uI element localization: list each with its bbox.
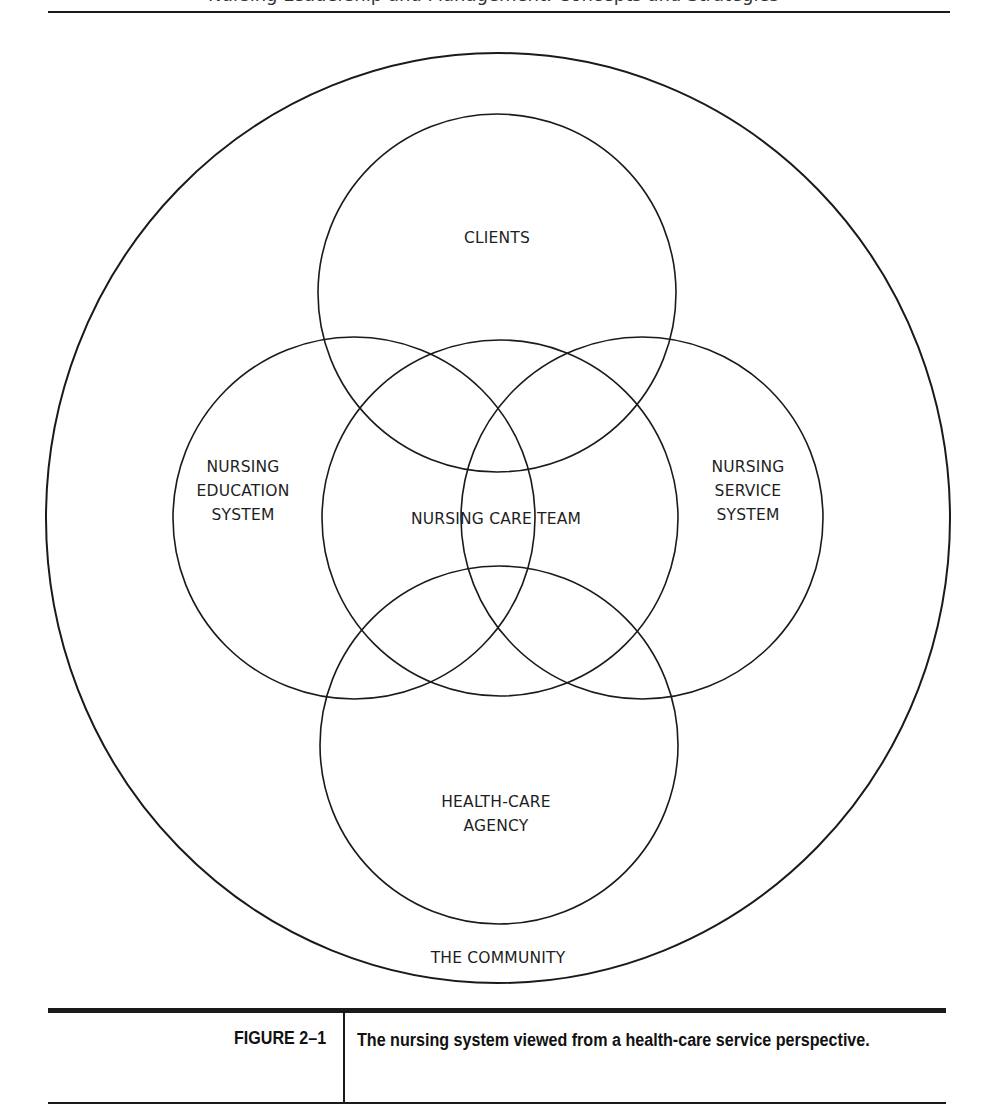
figure-number: FIGURE 2–1 <box>234 1028 326 1049</box>
label-line: HEALTH-CARE <box>441 790 550 814</box>
health-care-agency-circle <box>320 566 678 924</box>
community-label: THE COMMUNITY <box>431 946 566 970</box>
label-line: SYSTEM <box>197 503 290 527</box>
label-line: NURSING <box>711 455 784 479</box>
figure-caption-text: The nursing system viewed from a health-… <box>357 1028 872 1052</box>
nursing-service-system-label: NURSINGSERVICESYSTEM <box>711 455 784 527</box>
caption-bottom-rule <box>48 1102 946 1104</box>
nursing-care-team-label: NURSING CARE TEAM <box>411 507 581 531</box>
caption-divider <box>343 1013 345 1102</box>
label-line: AGENCY <box>441 814 550 838</box>
caption-top-rule <box>48 1008 946 1013</box>
clients-circle <box>318 114 676 472</box>
label-line: EDUCATION <box>197 479 290 503</box>
venn-diagram <box>0 0 987 1000</box>
label-line: SERVICE <box>711 479 784 503</box>
health-care-agency-label: HEALTH-CAREAGENCY <box>441 790 550 838</box>
label-line: SYSTEM <box>711 503 784 527</box>
clients-label: CLIENTS <box>464 226 530 250</box>
figure-caption: FIGURE 2–1 The nursing system viewed fro… <box>48 1008 946 1104</box>
label-line: NURSING CARE TEAM <box>411 507 581 531</box>
nursing-education-system-label: NURSINGEDUCATIONSYSTEM <box>197 455 290 527</box>
label-line: CLIENTS <box>464 226 530 250</box>
label-line: NURSING <box>197 455 290 479</box>
